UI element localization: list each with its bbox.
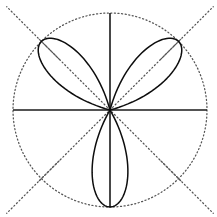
polar-rose-figure [0, 0, 217, 217]
polar-plot-canvas [0, 0, 217, 217]
